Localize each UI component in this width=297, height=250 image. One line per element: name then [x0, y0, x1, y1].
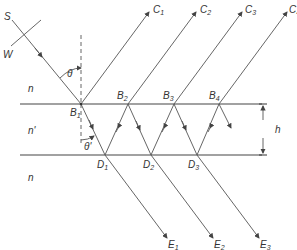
label-c4: C4 [289, 4, 297, 16]
transmitted-ray-e3 [197, 155, 259, 238]
internal-ray-b4 [219, 104, 231, 128]
label-wavefront: W [3, 49, 14, 60]
reflected-ray-c1 [81, 12, 149, 104]
label-thickness: h [275, 124, 281, 135]
label-e1: E1 [168, 239, 179, 250]
label-b1: B1 [70, 107, 81, 119]
label-b3: B3 [163, 90, 174, 102]
label-n-top: n [28, 83, 34, 94]
label-e2: E2 [214, 239, 225, 250]
label-theta: θ [67, 68, 73, 79]
reflected-ray-c4 [219, 12, 287, 104]
incident-ray [12, 20, 81, 104]
label-theta-prime: θ' [84, 141, 92, 152]
internal-ray-d2-b3 [151, 104, 174, 155]
theta-prime-arc [81, 136, 94, 140]
label-c1: C1 [153, 4, 164, 16]
thin-film-interference-diagram: S W θ θ' n n' n h B1 B2 B3 B4 D1 D2 D3 C… [0, 0, 297, 250]
point-b1 [80, 103, 83, 106]
label-n-bottom: n [28, 172, 34, 183]
label-d1: D1 [97, 159, 108, 171]
reflected-ray-c3 [174, 12, 242, 104]
arrow-b2-d2 [136, 121, 140, 130]
label-source: S [4, 11, 11, 22]
label-d3: D3 [188, 159, 199, 171]
internal-ray-d3-b4 [197, 104, 219, 155]
arrow-b3-d3 [182, 121, 186, 130]
label-b2: B2 [117, 90, 128, 102]
transmitted-ray-e1 [105, 155, 167, 238]
internal-ray-d1-b2 [105, 104, 128, 155]
reflected-ray-c2 [128, 12, 196, 104]
transmitted-ray-e2 [151, 155, 213, 238]
label-n-film: n' [28, 125, 37, 136]
incident-arrow [35, 48, 42, 57]
label-d2: D2 [143, 159, 154, 171]
label-e3: E3 [260, 239, 271, 250]
arrow-b1-d1 [89, 120, 93, 129]
label-c3: C3 [245, 4, 256, 16]
label-b4: B4 [209, 90, 220, 102]
label-c2: C2 [200, 4, 211, 16]
